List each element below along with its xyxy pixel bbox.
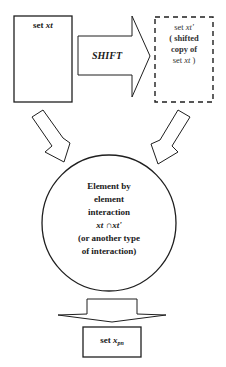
label-prefix: set <box>100 335 113 345</box>
shifted-set-label: set xt' ( shifted copy of set xt ) <box>156 22 212 66</box>
interaction-label: Element by element interaction xt ∩xt' (… <box>44 180 174 258</box>
shifted-line-3: copy of <box>156 44 212 55</box>
right-down-arrow <box>151 110 190 164</box>
circle-line-5: (or another type <box>44 232 174 245</box>
variable-xt: xt <box>46 20 53 30</box>
label-prefix: set <box>173 55 185 65</box>
intersection-symbol: ∩ <box>103 220 112 230</box>
result-set-label: set xpn <box>83 335 141 346</box>
shifted-line-2: ( shifted <box>156 33 212 44</box>
circle-line-6: of interaction) <box>44 245 174 258</box>
circle-line-2: element <box>44 193 174 206</box>
shift-label: SHIFT <box>82 50 132 61</box>
label-prefix: set <box>33 20 46 30</box>
subscript-pn: pn <box>117 340 123 346</box>
shifted-line-4: set xt ) <box>156 55 212 66</box>
circle-line-3: interaction <box>44 206 174 219</box>
down-arrow <box>58 299 166 322</box>
shifted-line-1: set xt' <box>156 22 212 33</box>
source-set-label: set xt <box>14 20 72 30</box>
label-prefix: set <box>174 22 186 32</box>
circle-line-1: Element by <box>44 180 174 193</box>
variable-xt-prime: xt' <box>112 220 122 230</box>
left-down-arrow <box>32 110 70 162</box>
label-suffix: ) <box>190 55 195 65</box>
circle-formula: xt ∩xt' <box>44 219 174 232</box>
variable-xt-prime: xt' <box>186 22 194 32</box>
